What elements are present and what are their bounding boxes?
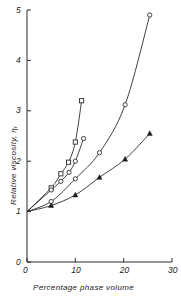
series-line [27, 133, 150, 211]
axes-group [27, 10, 172, 262]
data-point-filled-triangle [73, 192, 78, 197]
data-point-open-circle [81, 136, 85, 140]
data-point-open-circle [148, 13, 152, 17]
data-point-open-circle [73, 159, 77, 163]
x-tick-label: 20 [120, 266, 129, 275]
x-tick-label: 0 [23, 266, 28, 275]
data-point-open-circle [49, 188, 53, 192]
eta-symbol: η [9, 128, 18, 133]
plot-canvas [0, 0, 181, 297]
data-point-open-square [73, 140, 77, 144]
data-point-filled-triangle [147, 131, 152, 136]
data-point-open-circle [67, 170, 71, 174]
figure-container: Relative viscosity, ηr Percentage phase … [0, 0, 181, 297]
y-tick-label: 1 [16, 207, 21, 216]
eta-subscript: r [12, 126, 18, 128]
series-series-2 [27, 136, 86, 211]
data-point-open-circle [59, 179, 63, 183]
data-point-open-square [80, 99, 84, 103]
y-tick-label: 3 [16, 106, 21, 115]
series-line [27, 101, 82, 212]
series-line [27, 139, 84, 212]
x-tick-label: 10 [71, 266, 80, 275]
series-series-4 [27, 131, 152, 212]
x-tick-label: 30 [168, 266, 177, 275]
y-tick-label: 0 [16, 258, 21, 267]
data-point-open-circle [123, 103, 127, 107]
data-series-layer [27, 13, 152, 212]
data-point-open-square [59, 172, 63, 176]
series-line [27, 15, 150, 212]
y-axis-ticks [27, 10, 31, 262]
data-point-open-circle [97, 151, 101, 155]
data-point-open-circle [73, 177, 77, 181]
y-tick-label: 4 [16, 56, 21, 65]
y-tick-label: 2 [16, 157, 21, 166]
x-axis-title: Percentage phase volume [33, 284, 134, 292]
data-point-filled-triangle [97, 175, 102, 180]
y-tick-label: 5 [16, 6, 21, 15]
series-series-3 [27, 13, 152, 212]
x-axis-ticks [27, 258, 172, 262]
data-point-open-square [66, 160, 70, 164]
